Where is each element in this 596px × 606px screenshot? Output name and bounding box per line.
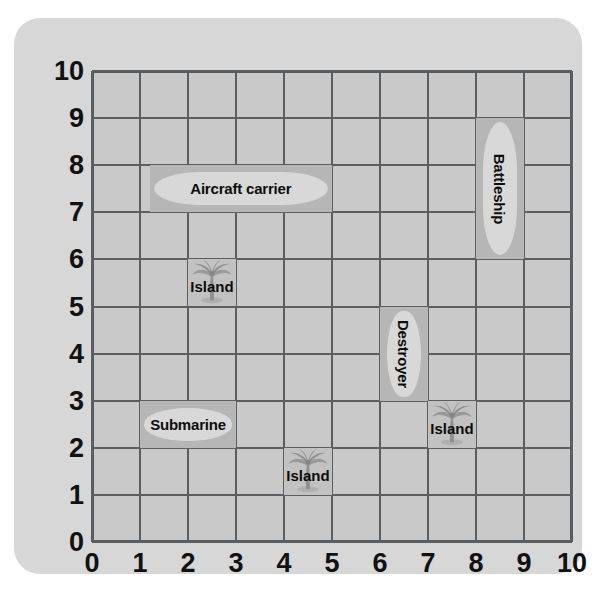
ship-label-submarine: Submarine	[140, 401, 236, 448]
board-card: 109876543210 012345678910 Aircraft carri…	[14, 18, 582, 574]
island-cell[interactable]: Island	[188, 259, 236, 306]
ship-label-aircraft-carrier: Aircraft carrier	[150, 165, 332, 212]
island-label: Island	[188, 278, 236, 295]
x-axis-tick-8: 8	[451, 550, 501, 577]
x-axis-tick-9: 9	[499, 550, 549, 577]
battleship-grid[interactable]: Aircraft carrierBattleshipDestroyerSubma…	[92, 71, 572, 542]
gridline-vertical	[571, 71, 573, 542]
y-axis: 109876543210	[36, 71, 84, 542]
island-label: Island	[284, 467, 332, 484]
x-axis-tick-4: 4	[259, 550, 309, 577]
y-axis-tick-3: 3	[44, 387, 84, 414]
y-axis-tick-7: 7	[44, 199, 84, 226]
island-label: Island	[428, 420, 476, 437]
x-axis-tick-6: 6	[355, 550, 405, 577]
island-cell[interactable]: Island	[428, 401, 476, 448]
x-axis: 012345678910	[92, 550, 572, 590]
x-axis-tick-3: 3	[211, 550, 261, 577]
y-axis-tick-8: 8	[44, 152, 84, 179]
x-axis-tick-7: 7	[403, 550, 453, 577]
gridline-horizontal	[92, 306, 572, 308]
y-axis-tick-4: 4	[44, 340, 84, 367]
island-cell[interactable]: Island	[284, 448, 332, 495]
y-axis-tick-10: 10	[44, 58, 84, 85]
y-axis-tick-1: 1	[44, 481, 84, 508]
y-axis-tick-2: 2	[44, 434, 84, 461]
x-axis-tick-5: 5	[307, 550, 357, 577]
gridline-horizontal	[92, 70, 572, 72]
x-axis-tick-2: 2	[163, 550, 213, 577]
x-axis-tick-1: 1	[115, 550, 165, 577]
ship-label-battleship: Battleship	[476, 118, 524, 259]
x-axis-tick-0: 0	[67, 550, 117, 577]
ship-label-destroyer: Destroyer	[380, 307, 428, 401]
x-axis-tick-10: 10	[547, 550, 596, 577]
y-axis-tick-9: 9	[44, 105, 84, 132]
y-axis-tick-5: 5	[44, 293, 84, 320]
y-axis-tick-6: 6	[44, 246, 84, 273]
